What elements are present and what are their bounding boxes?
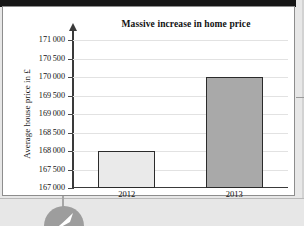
bar-chart: Massive increase in home price Average h… [3, 7, 296, 195]
y-tick-label: 169 500 [11, 91, 65, 100]
y-tick-label: 168 500 [11, 128, 65, 137]
gutter-rule [296, 97, 304, 98]
y-axis-arrow-icon [69, 23, 77, 31]
y-tick-label: 170 500 [11, 54, 65, 63]
x-tick-label: 2012 [102, 189, 152, 199]
y-tick-label: 170 000 [11, 72, 65, 81]
y-tick-mark [68, 151, 73, 152]
y-tick-mark [68, 114, 73, 115]
y-tick-label: 168 000 [11, 146, 65, 155]
y-tick-label: 169 000 [11, 109, 65, 118]
y-tick-mark [68, 133, 73, 134]
y-tick-label: 167 500 [11, 165, 65, 174]
y-tick-mark [68, 77, 73, 78]
y-tick-mark [68, 188, 73, 189]
y-tick-label: 171 000 [11, 35, 65, 44]
y-tick-mark [68, 170, 73, 171]
y-tick-mark [68, 96, 73, 97]
y-tick-label: 167 000 [11, 183, 65, 192]
chart-title: Massive increase in home price [91, 19, 281, 29]
bar-2013 [206, 77, 263, 188]
gridline [73, 40, 288, 41]
swoosh-icon [53, 212, 75, 226]
y-tick-mark [68, 40, 73, 41]
scanned-page: Massive increase in home price Average h… [0, 0, 304, 226]
circle-swoosh-logo-icon [44, 206, 84, 226]
y-tick-mark [68, 59, 73, 60]
page-edge-right [302, 0, 304, 198]
x-tick-label: 2013 [209, 189, 259, 199]
figure-paper: Massive increase in home price Average h… [2, 6, 295, 196]
bar-2012 [98, 151, 155, 188]
gridline [73, 59, 288, 60]
